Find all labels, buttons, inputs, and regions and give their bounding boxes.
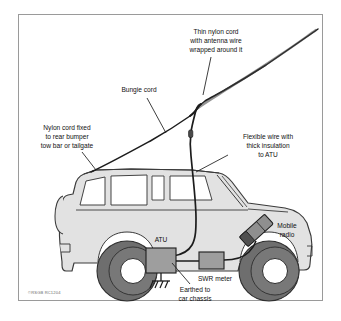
rear-bumper [60, 244, 70, 252]
label-flexible-wire-line2: thick insulation [246, 142, 290, 149]
label-swr-meter-text: SWR meter [198, 275, 233, 282]
label-thin-nylon-cord-line1: Thin nylon cord [193, 28, 238, 36]
wire-insulator-bead [189, 130, 193, 138]
label-atu: ATU [155, 236, 168, 243]
label-swr-meter: SWR meter [198, 275, 233, 282]
rear-vent-window [152, 176, 164, 200]
rear-door-window [111, 175, 147, 205]
label-nylon-cord-fixed: Nylon cord fixed to rear bumper tow bar … [41, 124, 94, 150]
label-flexible-wire-line3: to ATU [258, 151, 278, 158]
front-door-window [170, 176, 212, 200]
copyright-notice: ©RSGB RC1204 [28, 290, 61, 295]
figure-container: Thin nylon cord with antenna wire wrappe… [0, 0, 341, 321]
swr-meter-unit[interactable] [199, 252, 224, 269]
label-nylon-cord-fixed-line3: tow bar or tailgate [41, 142, 94, 150]
label-earthed-line1: Earthed to [180, 286, 211, 293]
front-wheel [239, 241, 299, 301]
label-nylon-cord-fixed-line2: to rear bumper [45, 133, 89, 141]
label-nylon-cord-fixed-line1: Nylon cord fixed [43, 124, 91, 132]
label-thin-nylon-cord: Thin nylon cord with antenna wire wrappe… [189, 28, 243, 54]
label-thin-nylon-cord-line2: with antenna wire [189, 37, 242, 44]
label-mobile-radio-line2: radio [280, 231, 295, 238]
swr-meter-box[interactable] [199, 252, 224, 269]
label-atu-text: ATU [155, 236, 168, 243]
atu-unit[interactable] [146, 248, 176, 273]
label-bungie-cord: Bungie cord [121, 86, 157, 94]
label-flexible-wire-line1: Flexible wire with [243, 133, 294, 140]
antenna-installation-diagram: Thin nylon cord with antenna wire wrappe… [0, 0, 341, 321]
label-thin-nylon-cord-line3: wrapped around it [189, 46, 243, 54]
label-bungie-cord-line1: Bungie cord [121, 86, 157, 94]
atu-box[interactable] [146, 248, 176, 273]
label-mobile-radio-line1: Mobile [277, 222, 297, 229]
label-earthed-line2: car chassis [179, 295, 213, 302]
